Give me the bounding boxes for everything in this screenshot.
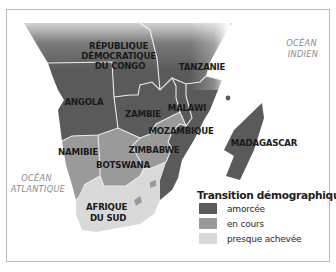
legend-swatch-medium: [199, 218, 217, 229]
label-zimbabwe: ZIMBABWE: [128, 145, 179, 155]
label-mozambique: MOZAMBIQUE: [148, 126, 214, 136]
label-botswana: BOTSWANA: [96, 160, 150, 170]
island-comoros: [226, 96, 231, 101]
label-angola: ANGOLA: [64, 97, 104, 107]
legend-swatch-light: [199, 233, 217, 244]
legend-label: en cours: [227, 219, 264, 229]
legend-title: Transition démographique: [197, 189, 332, 201]
legend-label: amorcée: [227, 204, 265, 214]
label-tanzania: TANZANIE: [179, 62, 226, 72]
label-madagascar: MADAGASCAR: [231, 138, 298, 148]
label-ocean-atlantique: OCÉAN ATLANTIQUE: [10, 172, 66, 194]
label-zambia: ZAMBIE: [125, 109, 161, 119]
label-namibia: NAMIBIE: [58, 147, 98, 157]
legend-item-amorcee: amorcée: [199, 201, 332, 216]
right-fade: [190, 10, 230, 90]
legend: Transition démographique amorcée en cour…: [222, 189, 332, 246]
legend-item-presque-achevee: presque achevée: [199, 231, 332, 246]
legend-item-en-cours: en cours: [199, 216, 332, 231]
label-ocean-indien: OCÉAN INDIEN: [286, 37, 319, 59]
label-south-africa: AFRIQUE DU SUD: [86, 202, 130, 223]
label-malawi: MALAWI: [168, 103, 206, 113]
legend-label: presque achevée: [227, 234, 301, 244]
legend-swatch-dark: [199, 203, 217, 214]
